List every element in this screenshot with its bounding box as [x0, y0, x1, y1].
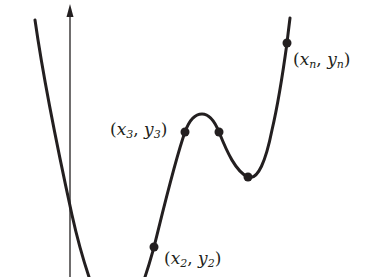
point-x3-y3	[181, 128, 190, 137]
function-graph	[0, 0, 381, 277]
var-y: y	[144, 119, 154, 139]
paren-open: (	[293, 49, 300, 69]
label-x3-y3: (x3, y3)	[110, 121, 167, 140]
var-x: x	[171, 248, 181, 268]
curve-left-branch	[35, 20, 89, 277]
axis-arrow-icon	[67, 4, 74, 17]
paren-close: )	[161, 119, 168, 139]
sub-y: 2	[208, 257, 215, 270]
point-x2-y2	[150, 243, 159, 252]
sub-y: n	[337, 58, 344, 71]
label-xn-yn: (xn, yn)	[293, 51, 350, 70]
var-x: x	[300, 49, 310, 69]
curve-right-branch	[145, 18, 290, 277]
point-xn-yn	[283, 39, 292, 48]
var-y: y	[327, 49, 337, 69]
point-unlabeled-2	[244, 173, 253, 182]
paren-close: )	[215, 248, 222, 268]
y-axis	[67, 4, 74, 277]
comma: ,	[133, 119, 144, 139]
point-unlabeled-1	[215, 128, 224, 137]
var-x: x	[117, 119, 127, 139]
comma: ,	[187, 248, 198, 268]
var-y: y	[198, 248, 208, 268]
sub-y: 3	[154, 128, 161, 141]
paren-open: (	[164, 248, 171, 268]
paren-open: (	[110, 119, 117, 139]
label-x2-y2: (x2, y2)	[164, 250, 221, 269]
paren-close: )	[344, 49, 351, 69]
comma: ,	[316, 49, 327, 69]
